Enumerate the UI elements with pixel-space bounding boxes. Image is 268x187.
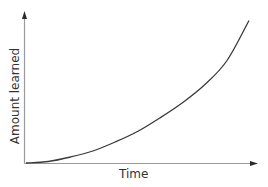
- learning-curve-line: [26, 21, 249, 164]
- learning-curve-chart: Time Amount learned: [0, 0, 268, 187]
- y-axis-arrow-icon: [22, 11, 27, 19]
- x-axis-arrow-icon: [250, 161, 258, 166]
- x-axis-label: Time: [119, 167, 148, 181]
- chart-canvas: [0, 0, 268, 187]
- y-axis-label: Amount learned: [8, 48, 22, 144]
